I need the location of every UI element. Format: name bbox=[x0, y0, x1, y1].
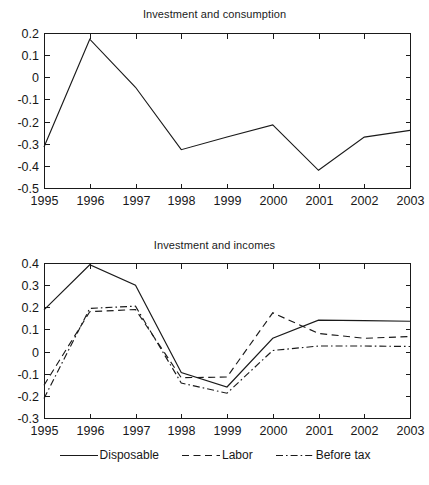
x-axis-tick-label: 2000 bbox=[260, 194, 288, 208]
legend-line-swatch-icon bbox=[59, 449, 99, 461]
x-axis-tick-label: 1995 bbox=[31, 424, 59, 438]
x-axis-tick-label: 2003 bbox=[397, 424, 425, 438]
legend-line-swatch-icon bbox=[181, 449, 221, 461]
x-axis-tick-label: 1998 bbox=[168, 424, 196, 438]
y-axis-tick-label: -0.3 bbox=[17, 138, 39, 152]
chart-title-bottom: Investment and incomes bbox=[0, 239, 429, 251]
x-axis-tick-label: 2001 bbox=[306, 194, 334, 208]
y-axis-tick-label: -0.4 bbox=[17, 160, 39, 174]
legend-item-label: Disposable bbox=[100, 448, 159, 462]
chart-svg-bottom: 0.40.30.20.10-0.1-0.2-0.3199519961997199… bbox=[0, 232, 429, 447]
data-series-line bbox=[44, 265, 410, 387]
x-axis-tick-label: 1995 bbox=[31, 194, 59, 208]
x-axis-tick-label: 2001 bbox=[306, 424, 334, 438]
x-axis-tick-label: 2002 bbox=[351, 194, 379, 208]
figure-container: Investment and consumption 0.20.10-0.1-0… bbox=[0, 0, 429, 485]
x-axis-tick-label: 1997 bbox=[123, 424, 151, 438]
y-axis-tick-label: 0.2 bbox=[22, 301, 39, 315]
legend-line-swatch-icon bbox=[275, 449, 315, 461]
x-axis-tick-label: 1996 bbox=[77, 424, 105, 438]
y-axis-tick-label: 0.3 bbox=[22, 279, 39, 293]
y-axis-tick-label: 0.2 bbox=[22, 27, 39, 41]
legend-item[interactable]: Labor bbox=[181, 448, 253, 462]
y-axis-tick-label: -0.1 bbox=[17, 368, 39, 382]
legend-item-label: Before tax bbox=[316, 448, 371, 462]
chart-legend: DisposableLaborBefore tax bbox=[0, 448, 429, 462]
data-series-line bbox=[44, 39, 410, 170]
y-axis-tick-label: 0 bbox=[32, 346, 39, 360]
y-axis-tick-label: -0.2 bbox=[17, 116, 39, 130]
legend-item[interactable]: Disposable bbox=[59, 448, 159, 462]
y-axis-tick-label: -0.1 bbox=[17, 93, 39, 107]
chart-title-top: Investment and consumption bbox=[0, 8, 429, 20]
y-axis-tick-label: 0.1 bbox=[22, 323, 39, 337]
chart-svg-top: 0.20.10-0.1-0.2-0.3-0.4-0.51995199619971… bbox=[0, 0, 429, 232]
y-axis-tick-label: 0 bbox=[32, 71, 39, 85]
x-axis-tick-label: 1996 bbox=[77, 194, 105, 208]
legend-item[interactable]: Before tax bbox=[275, 448, 371, 462]
x-axis-tick-label: 2003 bbox=[397, 194, 425, 208]
x-axis-tick-label: 1997 bbox=[123, 194, 151, 208]
x-axis-tick-label: 2000 bbox=[260, 424, 288, 438]
y-axis-tick-label: -0.2 bbox=[17, 390, 39, 404]
y-axis-tick-label: 0.1 bbox=[22, 49, 39, 63]
y-axis-tick-label: 0.4 bbox=[22, 257, 39, 271]
chart-panel-investment-consumption: Investment and consumption 0.20.10-0.1-0… bbox=[0, 0, 429, 232]
x-axis-tick-label: 1999 bbox=[214, 194, 242, 208]
x-axis-tick-label: 2002 bbox=[351, 424, 379, 438]
x-axis-tick-label: 1998 bbox=[168, 194, 196, 208]
legend-item-label: Labor bbox=[222, 448, 253, 462]
x-axis-tick-label: 1999 bbox=[214, 424, 242, 438]
